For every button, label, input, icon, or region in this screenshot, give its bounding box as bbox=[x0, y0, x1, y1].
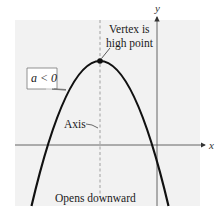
y-axis-label: y bbox=[154, 2, 160, 14]
coefficient-label: a < 0 bbox=[31, 71, 57, 85]
vertex-callout-line1: Vertex is bbox=[109, 23, 150, 35]
vertex-point bbox=[97, 58, 103, 64]
axis-label: Axis bbox=[64, 118, 86, 130]
opens-downward-label: Opens downward bbox=[55, 192, 136, 205]
vertex-callout-line2: high point bbox=[106, 37, 154, 50]
x-axis-label: x bbox=[208, 139, 214, 151]
parabola-figure: x y Vertex is high point a < 0 Axis Open… bbox=[0, 0, 219, 222]
